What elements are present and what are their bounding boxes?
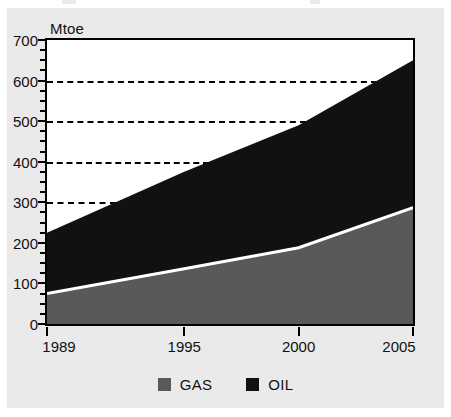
y-tick-major-200 <box>38 242 47 244</box>
y-tick-label-700: 700 <box>0 32 38 49</box>
y-tick-minor-250 <box>40 222 46 224</box>
y-tick-label-500: 500 <box>0 113 38 130</box>
plot-area <box>45 38 415 326</box>
y-tick-major-400 <box>38 161 47 163</box>
y-tick-minor-550 <box>40 100 46 102</box>
y-tick-minor-325 <box>40 191 46 193</box>
y-tick-label-100: 100 <box>0 275 38 292</box>
y-tick-major-300 <box>38 201 47 203</box>
y-tick-major-0 <box>38 323 47 325</box>
x-tick-2005 <box>412 327 414 336</box>
y-tick-label-600: 600 <box>0 72 38 89</box>
legend-swatch-gas <box>158 378 171 391</box>
x-tick-label-2000: 2000 <box>282 338 315 355</box>
x-tick-2000 <box>298 327 300 336</box>
x-tick-label-1989: 1989 <box>42 338 75 355</box>
legend-item-gas[interactable]: GAS <box>158 376 213 393</box>
y-tick-minor-475 <box>40 130 46 132</box>
y-tick-minor-675 <box>40 49 46 51</box>
x-tick-1995 <box>183 327 185 336</box>
y-tick-minor-125 <box>40 272 46 274</box>
y-tick-minor-375 <box>40 171 46 173</box>
legend-label-oil: OIL <box>268 376 293 393</box>
y-tick-minor-575 <box>40 90 46 92</box>
x-tick-1989 <box>46 327 48 336</box>
legend-label-gas: GAS <box>180 376 213 393</box>
y-tick-minor-350 <box>40 181 46 183</box>
y-tick-major-600 <box>38 80 47 82</box>
y-tick-label-0: 0 <box>0 316 38 333</box>
y-tick-minor-525 <box>40 110 46 112</box>
y-tick-minor-25 <box>40 313 46 315</box>
top-edge-artifact-left <box>62 0 76 4</box>
x-tick-label-2005: 2005 <box>382 338 415 355</box>
y-tick-minor-650 <box>40 59 46 61</box>
plot-inner <box>47 40 413 324</box>
y-tick-minor-275 <box>40 211 46 213</box>
y-tick-major-500 <box>38 120 47 122</box>
y-tick-minor-150 <box>40 262 46 264</box>
y-tick-label-400: 400 <box>0 153 38 170</box>
stacked-area-series <box>47 40 413 324</box>
y-tick-minor-450 <box>40 140 46 142</box>
legend-swatch-oil <box>246 378 259 391</box>
y-tick-minor-75 <box>40 293 46 295</box>
x-tick-label-1995: 1995 <box>168 338 201 355</box>
y-tick-major-700 <box>38 39 47 41</box>
chart-screenshot: Mtoe 0100200300400500600700 198919952000… <box>0 0 451 417</box>
y-tick-minor-425 <box>40 151 46 153</box>
chart-legend: GAS OIL <box>0 376 451 393</box>
y-tick-minor-225 <box>40 232 46 234</box>
top-edge-artifact-right <box>310 0 320 4</box>
y-tick-major-100 <box>38 282 47 284</box>
y-tick-minor-50 <box>40 303 46 305</box>
y-tick-minor-625 <box>40 69 46 71</box>
y-tick-label-200: 200 <box>0 234 38 251</box>
y-axis-unit-label: Mtoe <box>50 20 84 37</box>
legend-item-oil[interactable]: OIL <box>246 376 293 393</box>
y-tick-label-300: 300 <box>0 194 38 211</box>
y-tick-minor-175 <box>40 252 46 254</box>
